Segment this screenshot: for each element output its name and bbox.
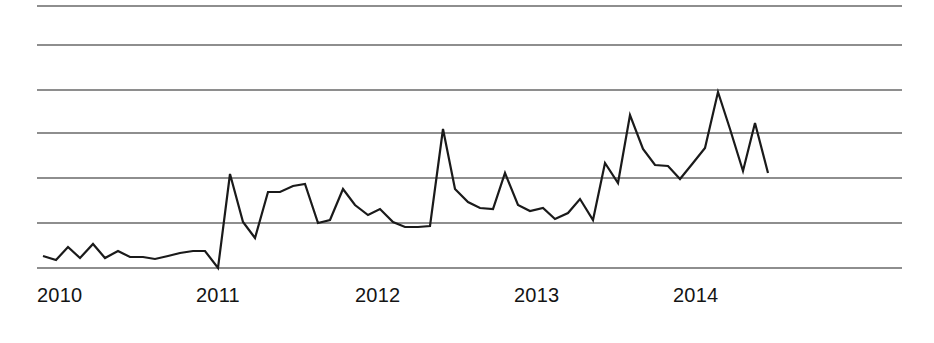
line-chart-figure: 20102011201220132014	[0, 0, 934, 343]
gridlines	[37, 6, 902, 268]
chart-plot-area	[0, 0, 934, 343]
data-line-series-1	[43, 92, 768, 268]
data-series-group	[43, 92, 768, 268]
